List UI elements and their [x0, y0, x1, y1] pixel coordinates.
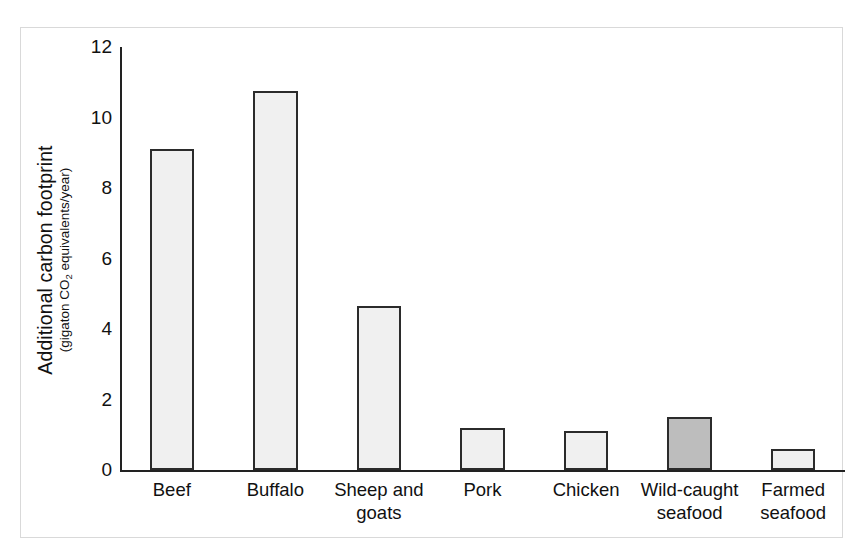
x-tick-label-line: Wild-caught — [638, 478, 742, 501]
x-tick-label-line: Chicken — [534, 478, 638, 501]
x-axis-line — [120, 470, 845, 472]
x-tick-labels: BeefBuffaloSheep andgoatsPorkChickenWild… — [120, 478, 845, 538]
y-tick-label: 8 — [66, 177, 112, 199]
bar-sheep-and-goats — [357, 306, 402, 470]
y-axis-units-subscript: 2 — [64, 274, 75, 279]
x-tick-label: Farmedseafood — [741, 478, 845, 524]
y-tick-label: 10 — [66, 107, 112, 129]
x-tick-label: Sheep andgoats — [327, 478, 431, 524]
y-tick-label: 6 — [66, 248, 112, 270]
x-tick-label: Beef — [120, 478, 224, 501]
bar-chicken — [564, 431, 609, 470]
plot-area: 024681012 — [120, 47, 845, 470]
y-axis-title-main: Additional carbon footprint — [35, 145, 55, 374]
bar-buffalo — [253, 91, 298, 470]
x-tick-label: Buffalo — [224, 478, 328, 501]
bar-pork — [460, 428, 505, 470]
y-tick-label: 12 — [66, 36, 112, 58]
y-tick-label: 2 — [66, 389, 112, 411]
x-tick-label-line: Sheep and — [327, 478, 431, 501]
y-axis-units-prefix: (gigaton CO — [58, 280, 73, 353]
x-tick-label-line: Buffalo — [224, 478, 328, 501]
bar-wild-caught-seafood — [667, 417, 712, 470]
x-tick-label: Pork — [431, 478, 535, 501]
y-tick-label: 4 — [66, 318, 112, 340]
x-tick-label-line: Farmed — [741, 478, 845, 501]
x-tick-label-line: seafood — [741, 501, 845, 524]
y-tick-label: 0 — [66, 459, 112, 481]
chart-figure: Additional carbon footprint (gigaton CO2… — [0, 0, 865, 560]
x-tick-label: Chicken — [534, 478, 638, 501]
x-tick-label-line: Pork — [431, 478, 535, 501]
bar-beef — [150, 149, 195, 470]
bar-farmed-seafood — [771, 449, 816, 470]
x-tick-label-line: Beef — [120, 478, 224, 501]
x-tick-label-line: goats — [327, 501, 431, 524]
x-tick-label: Wild-caughtseafood — [638, 478, 742, 524]
x-tick-label-line: seafood — [638, 501, 742, 524]
bar-series — [120, 47, 845, 470]
